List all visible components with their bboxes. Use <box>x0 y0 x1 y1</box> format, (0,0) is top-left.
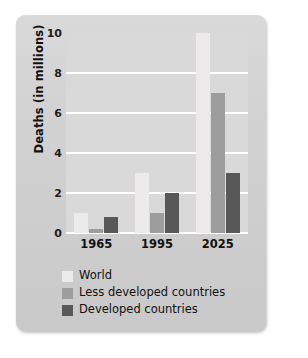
y-axis-tick-label: 6 <box>40 108 62 119</box>
plot-area <box>66 33 248 233</box>
bar-group <box>187 33 248 233</box>
x-axis-tick-label: 1965 <box>66 237 127 251</box>
legend-label: World <box>79 270 112 282</box>
legend-item: World <box>62 268 252 284</box>
bars-layer <box>66 33 248 233</box>
legend-swatch <box>62 288 73 299</box>
x-axis-tick-label: 2025 <box>187 237 248 251</box>
legend-swatch <box>62 305 73 316</box>
bar <box>89 229 103 233</box>
bar <box>135 173 149 233</box>
y-axis-tick-label: 10 <box>40 28 62 39</box>
bar-group <box>66 33 127 233</box>
bar <box>196 33 210 233</box>
bar <box>165 193 179 233</box>
x-axis-tick-labels: 196519952025 <box>66 237 248 257</box>
x-axis-tick-label: 1995 <box>127 237 188 251</box>
legend-swatch <box>62 271 73 282</box>
bar <box>226 173 240 233</box>
bar <box>104 217 118 233</box>
legend-item: Developed countries <box>62 302 252 318</box>
legend-label: Less developed countries <box>79 287 225 299</box>
bar <box>74 213 88 233</box>
y-axis-tick-label: 2 <box>40 188 62 199</box>
y-axis-tick-labels: 0246810 <box>36 0 62 358</box>
y-axis-tick-label: 4 <box>40 148 62 159</box>
chart-legend: WorldLess developed countriesDeveloped c… <box>62 268 252 319</box>
bar <box>150 213 164 233</box>
figure-root: Deaths (in millions) 0246810 19651995202… <box>0 0 308 358</box>
y-axis-tick-label: 0 <box>40 228 62 239</box>
bar <box>211 93 225 233</box>
bar-group <box>127 33 188 233</box>
legend-label: Developed countries <box>79 304 198 316</box>
legend-item: Less developed countries <box>62 285 252 301</box>
y-axis-tick-label: 8 <box>40 68 62 79</box>
